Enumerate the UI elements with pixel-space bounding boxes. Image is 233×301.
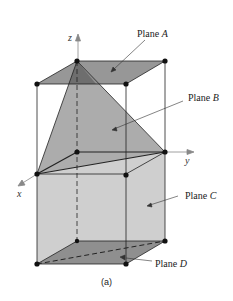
x-arrow-icon	[18, 180, 25, 186]
y-arrow-icon	[187, 150, 194, 155]
plane-d-label: Plane D	[155, 258, 188, 269]
z-axis-label: z	[67, 32, 72, 43]
plane-c-label: Plane C	[185, 190, 217, 201]
y-axis-label: y	[184, 155, 190, 166]
z-arrow-icon	[76, 34, 81, 41]
plane-b-label: Plane B	[188, 92, 219, 103]
figure-caption: (a)	[101, 277, 112, 287]
x-axis-label: x	[16, 188, 22, 199]
plane-a-label: Plane A	[137, 28, 169, 39]
diagram-canvas: z y x Plane A Plane B Plane C Plane D (a…	[0, 0, 233, 301]
